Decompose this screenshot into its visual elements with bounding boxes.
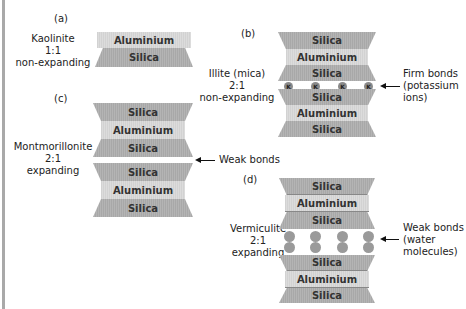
panel-c-tag: (c) xyxy=(54,93,67,105)
water-molecule-icon xyxy=(310,242,321,253)
layer-aluminium: Aluminium xyxy=(285,195,369,212)
panel-c-bond-label: Weak bonds xyxy=(219,154,280,166)
mineral-type: expanding xyxy=(13,165,93,177)
bond-label-line: ions) xyxy=(403,92,459,104)
panel-d-bond-label: Weak bonds (water molecules) xyxy=(403,222,464,258)
panel-a-mineral-label: Kaolinite 1:1 non-expanding xyxy=(13,33,93,69)
mineral-ratio: 2:1 xyxy=(197,80,277,92)
mineral-name: Montmorillonite xyxy=(13,141,93,153)
water-molecule-icon xyxy=(284,242,295,253)
layer-silica: Silica xyxy=(93,103,193,121)
panel-c-mineral-label: Montmorillonite 2:1 expanding xyxy=(13,141,93,177)
bond-label-line: (water xyxy=(403,234,464,246)
layer-aluminium: Aluminium xyxy=(101,121,185,139)
bond-label-line: molecules) xyxy=(403,246,464,258)
layer-silica: Silica xyxy=(279,255,375,271)
panel-b-tag: (b) xyxy=(241,28,255,40)
layer-aluminium: Aluminium xyxy=(286,105,368,121)
layer-silica: Silica xyxy=(279,178,375,195)
layer-silica: Silica xyxy=(93,139,193,157)
water-molecule-icon xyxy=(363,231,374,242)
layer-silica: Silica xyxy=(93,163,193,181)
layer-silica: Silica xyxy=(278,89,376,105)
water-molecule-icon xyxy=(284,231,295,242)
bond-label-line: Weak bonds xyxy=(403,222,464,234)
layer-silica: Silica xyxy=(278,65,376,81)
layer-silica: Silica xyxy=(279,288,375,303)
mineral-type: non-expanding xyxy=(13,57,93,69)
water-molecule-icon xyxy=(337,231,348,242)
bond-label-line: Firm bonds xyxy=(403,68,459,80)
arrow-left-icon xyxy=(385,86,400,87)
layer-silica: Silica xyxy=(95,48,193,67)
bond-label-line: (potassium xyxy=(403,80,459,92)
layer-silica: Silica xyxy=(278,121,376,137)
mineral-type: expanding xyxy=(228,247,288,259)
mineral-name: Vermiculite xyxy=(228,223,288,235)
panel-a-tag: (a) xyxy=(54,13,68,25)
mineral-type: non-expanding xyxy=(197,92,277,104)
layer-aluminium: Aluminium xyxy=(101,181,185,199)
panel-b-mineral-label: Illite (mica) 2:1 non-expanding xyxy=(197,68,277,104)
panel-d-tag: (d) xyxy=(243,174,257,186)
layer-aluminium: Aluminium xyxy=(286,49,368,65)
panel-d-mineral-label: Vermiculite 2:1 expanding xyxy=(228,223,288,259)
layer-silica: Silica xyxy=(279,212,375,229)
water-molecule-icon xyxy=(337,242,348,253)
mineral-ratio: 2:1 xyxy=(13,153,93,165)
panel-b-bond-label: Firm bonds (potassium ions) xyxy=(403,68,459,104)
water-molecule-icon xyxy=(310,231,321,242)
layer-silica: Silica xyxy=(278,32,376,49)
water-molecule-icon xyxy=(363,242,374,253)
mineral-name: Illite (mica) xyxy=(197,68,277,80)
arrow-left-icon xyxy=(200,160,215,161)
layer-aluminium: Aluminium xyxy=(97,32,191,48)
left-border xyxy=(2,0,5,309)
arrow-left-icon xyxy=(385,239,399,240)
mineral-ratio: 1:1 xyxy=(13,45,93,57)
layer-silica: Silica xyxy=(93,199,193,217)
mineral-name: Kaolinite xyxy=(13,33,93,45)
mineral-ratio: 2:1 xyxy=(228,235,288,247)
layer-aluminium: Aluminium xyxy=(285,271,369,288)
